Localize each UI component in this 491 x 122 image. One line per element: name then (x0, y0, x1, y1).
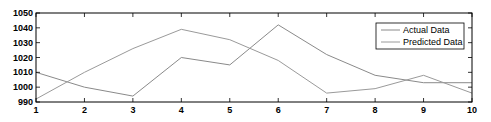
y-tick-label: 1000 (13, 82, 33, 92)
x-tick-label: 1 (33, 105, 38, 115)
y-tick-label: 1010 (13, 67, 33, 77)
x-tick-label: 5 (227, 105, 232, 115)
legend-label-predicted: Predicted Data (403, 37, 463, 47)
x-tick-label: 8 (373, 105, 378, 115)
legend: Actual Data Predicted Data (376, 23, 464, 49)
x-tick-label: 4 (179, 105, 184, 115)
y-tick-label: 1040 (13, 23, 33, 33)
x-tick-label: 10 (467, 105, 477, 115)
y-tick-label: 990 (18, 97, 33, 107)
y-tick-label: 1020 (13, 53, 33, 63)
line-chart: 12345678910990100010101020103010401050 A… (0, 0, 491, 122)
y-tick-label: 1050 (13, 8, 33, 18)
x-tick-label: 7 (324, 105, 329, 115)
x-tick-label: 3 (130, 105, 135, 115)
y-tick-label: 1030 (13, 38, 33, 48)
x-tick-label: 6 (276, 105, 281, 115)
x-tick-label: 2 (82, 105, 87, 115)
legend-label-actual: Actual Data (403, 25, 450, 35)
x-tick-label: 9 (421, 105, 426, 115)
